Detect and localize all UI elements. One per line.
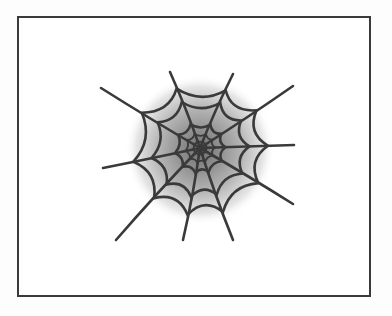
spider-web-illustration bbox=[0, 0, 392, 316]
